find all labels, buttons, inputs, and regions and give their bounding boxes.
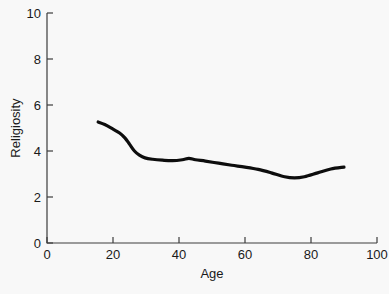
x-tick-label-80: 80 — [304, 247, 318, 262]
x-tick-label-0: 0 — [43, 247, 50, 262]
x-axis-ticks — [47, 237, 377, 243]
y-tick-label-6: 6 — [34, 98, 41, 113]
data-series-line — [98, 122, 344, 178]
y-tick-label-4: 4 — [34, 144, 41, 159]
y-tick-label-10: 10 — [27, 6, 41, 21]
x-tick-label-20: 20 — [106, 247, 120, 262]
y-tick-label-8: 8 — [34, 52, 41, 67]
line-chart-plot: 0 2 4 6 8 10 0 20 40 60 80 100 Age Relig… — [0, 0, 389, 294]
x-axis-tick-labels: 0 20 40 60 80 100 — [43, 247, 387, 262]
x-axis-title: Age — [200, 266, 223, 281]
x-tick-label-40: 40 — [172, 247, 186, 262]
x-tick-label-60: 60 — [238, 247, 252, 262]
x-tick-label-100: 100 — [366, 247, 388, 262]
y-axis-tick-labels: 0 2 4 6 8 10 — [27, 6, 41, 251]
y-tick-label-2: 2 — [34, 190, 41, 205]
y-tick-label-0: 0 — [34, 236, 41, 251]
axis-spines — [47, 13, 377, 243]
chart-figure: 0 2 4 6 8 10 0 20 40 60 80 100 Age Relig… — [0, 0, 389, 294]
y-axis-title: Religiosity — [8, 98, 23, 158]
y-axis-ticks — [47, 13, 53, 243]
